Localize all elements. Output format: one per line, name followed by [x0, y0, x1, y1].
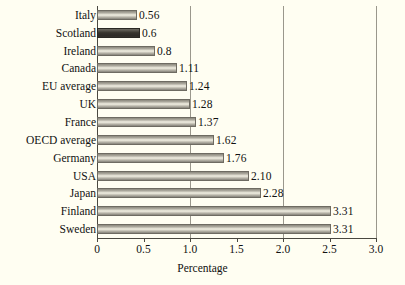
bar-fill	[97, 63, 177, 73]
bar-fill	[97, 117, 196, 127]
bar-fill	[97, 224, 331, 234]
x-tick-label: 1.0	[183, 243, 197, 255]
category-label: Sweden	[60, 223, 96, 235]
bar-row: Canada1.11	[0, 60, 405, 78]
x-tick	[330, 238, 331, 242]
bar-fill	[97, 135, 214, 145]
category-label: Canada	[62, 62, 96, 74]
bar	[97, 171, 249, 181]
bar-value-label: 1.28	[192, 98, 213, 110]
bar-row: France1.37	[0, 113, 405, 131]
category-label: USA	[73, 170, 96, 182]
category-label: Scotland	[56, 27, 96, 39]
bar-fill	[97, 10, 137, 20]
bar-row: Italy0.56	[0, 6, 405, 24]
x-axis-title: Percentage	[0, 262, 405, 274]
bar-value-label: 0.6	[142, 27, 157, 39]
bar	[97, 206, 331, 216]
bar-value-label: 0.56	[139, 9, 160, 21]
bar	[97, 188, 261, 198]
bar-value-label: 1.24	[189, 80, 210, 92]
bar	[97, 135, 214, 145]
bar-value-label: 2.10	[251, 170, 272, 182]
bar	[97, 153, 224, 163]
bar-value-label: 3.31	[333, 223, 354, 235]
x-tick-label: 3.0	[369, 243, 383, 255]
bar-row: UK1.28	[0, 95, 405, 113]
bar-fill	[97, 46, 155, 56]
bar-value-label: 1.62	[216, 134, 237, 146]
x-tick	[376, 238, 377, 242]
bar-value-label: 0.8	[157, 45, 172, 57]
bar	[97, 46, 155, 56]
bar-row: Japan2.28	[0, 184, 405, 202]
category-label: Japan	[70, 187, 96, 199]
category-label: Finland	[61, 205, 96, 217]
x-tick	[237, 238, 238, 242]
bar	[97, 28, 140, 38]
x-tick	[283, 238, 284, 242]
x-tick-label: 0.5	[136, 243, 150, 255]
category-label: UK	[79, 98, 96, 110]
bar-value-label: 1.37	[198, 116, 219, 128]
bar-row: Finland3.31	[0, 202, 405, 220]
x-tick	[97, 238, 98, 242]
bar-value-label: 1.11	[179, 62, 199, 74]
bar-chart: Italy0.56Scotland0.6Ireland0.8Canada1.11…	[0, 0, 405, 285]
bar	[97, 117, 196, 127]
bar-row: EU average1.24	[0, 77, 405, 95]
bar-fill	[97, 188, 261, 198]
bar	[97, 99, 190, 109]
bar-fill	[97, 81, 187, 91]
bar	[97, 224, 331, 234]
category-label: France	[65, 116, 96, 128]
bar-row: Sweden3.31	[0, 220, 405, 238]
category-label: Ireland	[63, 45, 96, 57]
bar	[97, 10, 137, 20]
bar-value-label: 2.28	[263, 187, 284, 199]
bar-fill	[97, 99, 190, 109]
bar	[97, 63, 177, 73]
category-label: Germany	[53, 152, 96, 164]
bar-fill	[97, 153, 224, 163]
x-tick	[144, 238, 145, 242]
category-label: EU average	[42, 80, 96, 92]
x-tick-label: 1.5	[229, 243, 243, 255]
x-tick-label: 0	[94, 243, 100, 255]
bar-value-label: 1.76	[226, 152, 247, 164]
x-tick-label: 2.0	[276, 243, 290, 255]
bar-fill	[97, 171, 249, 181]
bar-row: Scotland0.6	[0, 24, 405, 42]
bar-row: USA2.10	[0, 167, 405, 185]
x-tick	[190, 238, 191, 242]
bar-value-label: 3.31	[333, 205, 354, 217]
bar-fill	[97, 206, 331, 216]
bar-fill-highlight	[97, 28, 140, 38]
bar-row: Germany1.76	[0, 149, 405, 167]
bar-row: Ireland0.8	[0, 42, 405, 60]
category-label: Italy	[75, 9, 96, 21]
x-tick-label: 2.5	[322, 243, 336, 255]
category-label: OECD average	[26, 134, 96, 146]
bar-row: OECD average1.62	[0, 131, 405, 149]
bar	[97, 81, 187, 91]
